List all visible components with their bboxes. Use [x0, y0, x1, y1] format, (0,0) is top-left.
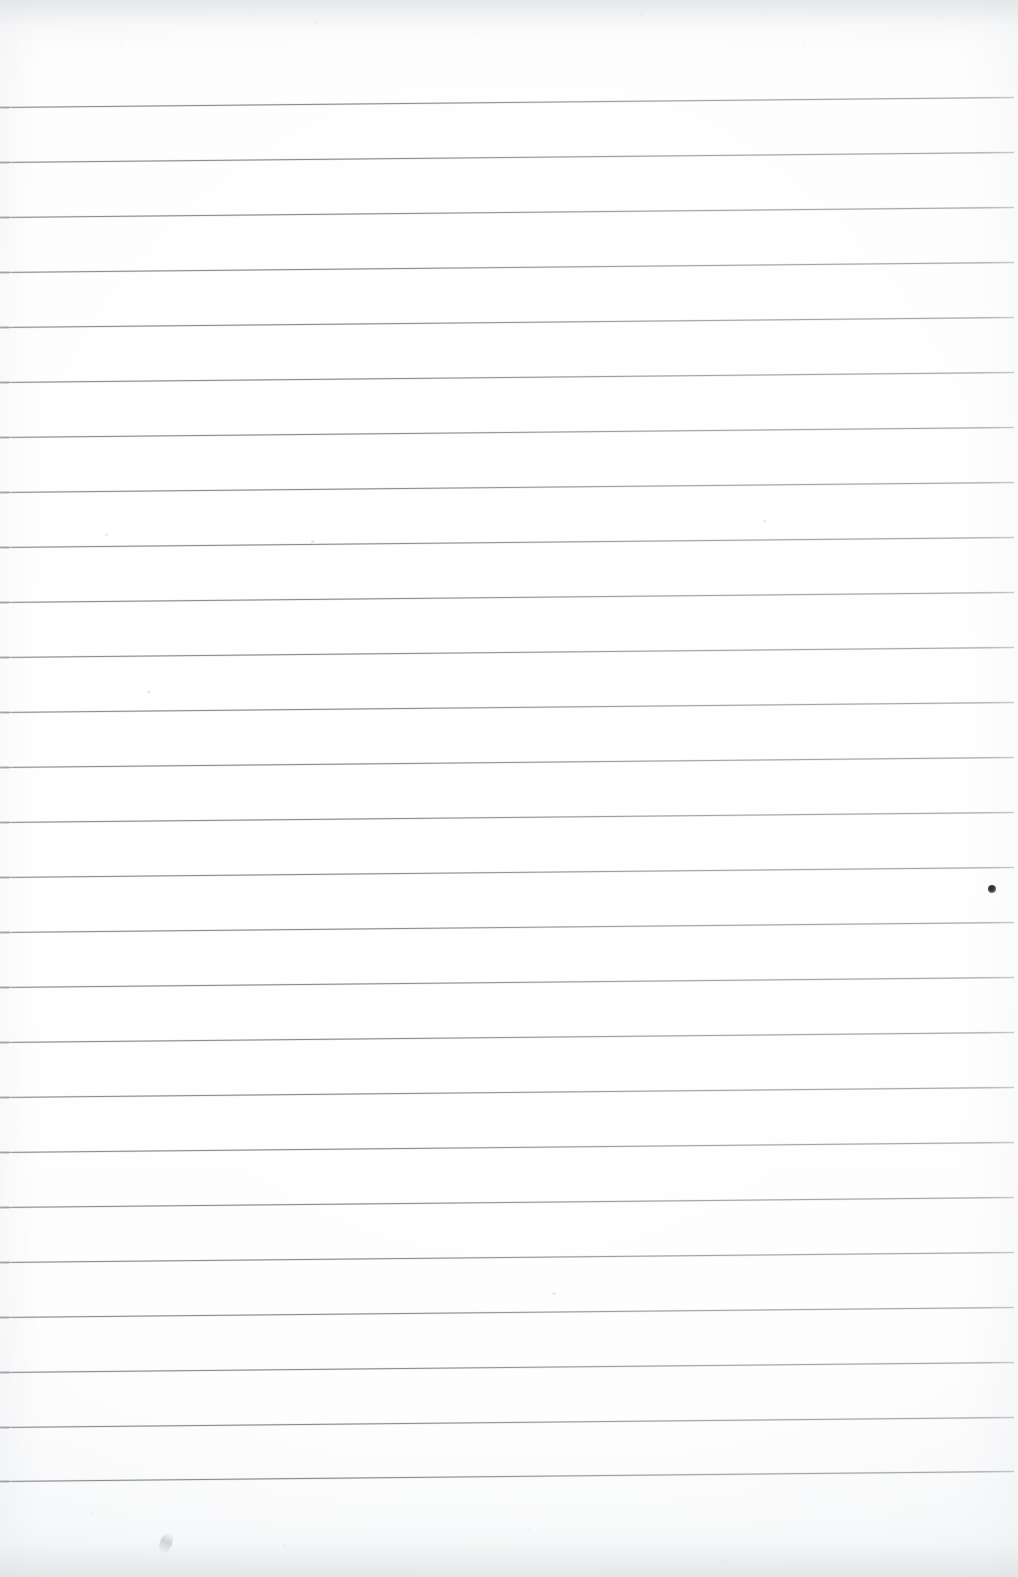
- scanned-page: [0, 0, 1018, 1577]
- ink-dot-mark: [988, 885, 996, 893]
- paper-background: [0, 0, 1018, 1577]
- paper-speck: [146, 690, 152, 694]
- paper-speck: [551, 1292, 557, 1295]
- paper-speck: [309, 540, 316, 543]
- paper-speck: [762, 519, 767, 523]
- paper-speck: [104, 533, 109, 537]
